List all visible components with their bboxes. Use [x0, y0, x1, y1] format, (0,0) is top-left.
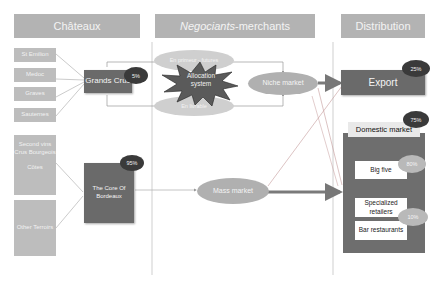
ellipse-niche-market: Niche market	[248, 72, 318, 95]
allocation-system-label: Allocation system	[180, 72, 222, 94]
badge-core-bordeaux-share: 95%	[120, 155, 144, 171]
box-core-bordeaux: The Core Of Bordeaux	[84, 163, 134, 223]
header-distribution: Distribution	[341, 14, 425, 38]
source-sauternes: Sauternes	[14, 108, 56, 122]
source-other-terroirs: Other Terroirs	[14, 200, 56, 256]
badge-domestic-share: 75%	[403, 111, 429, 128]
header-negociants-rest: -merchants	[235, 20, 290, 32]
header-chateaux-label: Châteaux	[53, 20, 100, 32]
header-negociants: Negociants-merchants	[155, 14, 315, 38]
badge-grands-crus-share: 5%	[124, 67, 148, 84]
badge-export-share: 25%	[402, 60, 430, 77]
source-cotes: Côtes	[27, 164, 43, 172]
source-second-vins-cotes: Second vins Crus Bourgeois Côtes	[14, 135, 56, 195]
badge-other-share: 10%	[398, 208, 428, 226]
source-second-vins: Second vins Crus Bourgeois	[14, 141, 56, 156]
header-distribution-label: Distribution	[355, 20, 410, 32]
source-graves: Graves	[14, 87, 56, 101]
header-chateaux: Châteaux	[14, 14, 140, 38]
ellipse-mass-market: Mass market	[197, 178, 269, 204]
box-bar-restaurants: Bar restaurants	[355, 221, 407, 240]
header-negociants-italic: Negociants	[180, 20, 235, 32]
source-st-emilion: St Emilion	[14, 48, 56, 62]
badge-big-five-share: 80%	[398, 155, 426, 173]
source-medoc: Medoc	[14, 68, 56, 82]
